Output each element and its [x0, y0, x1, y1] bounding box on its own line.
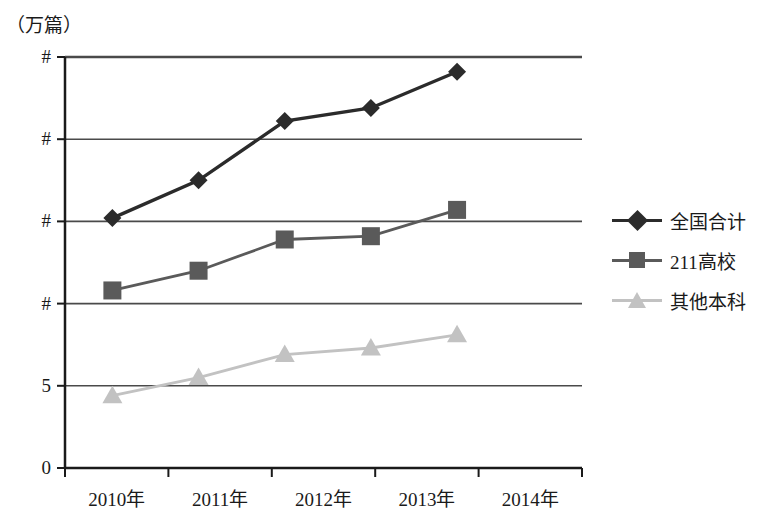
x-axis-tick-label: 2012年: [264, 490, 384, 509]
data-point-marker: [190, 262, 208, 280]
data-point-marker: [362, 227, 380, 245]
legend-label-2: 其他本科: [662, 287, 746, 314]
data-point-marker: [276, 230, 294, 248]
data-point-marker: [448, 201, 466, 219]
y-axis-tick-label: 5: [7, 376, 51, 395]
axis-lines: [65, 57, 582, 468]
chart-figure: （万篇） ####50 2010年2011年2012年2013年2014年 全国…: [0, 0, 768, 511]
legend-item-1[interactable]: 211高校: [612, 240, 768, 280]
gridlines: [65, 57, 582, 386]
legend-label-1: 211高校: [662, 247, 736, 274]
y-axis-tick-label: #: [7, 211, 51, 230]
legend-marker-diamond-icon: [612, 209, 662, 231]
series-line-0: [112, 72, 457, 218]
x-axis-ticks: [65, 468, 582, 477]
y-axis-tick-label: #: [7, 47, 51, 66]
series-markers: [102, 63, 467, 403]
legend-item-0[interactable]: 全国合计: [612, 200, 768, 240]
data-point-marker: [362, 99, 380, 117]
legend-marker-square-icon: [612, 249, 662, 271]
chart-legend: 全国合计 211高校 其他本科: [612, 200, 768, 320]
y-axis-tick-label: #: [7, 294, 51, 313]
legend-label-0: 全国合计: [662, 207, 746, 234]
data-point-marker: [103, 281, 121, 299]
data-point-marker: [103, 209, 121, 227]
legend-item-2[interactable]: 其他本科: [612, 280, 768, 320]
legend-marker-triangle-icon: [612, 289, 662, 311]
x-axis-tick-label: 2013年: [367, 490, 487, 509]
data-point-marker: [448, 63, 466, 81]
data-point-marker: [447, 325, 467, 343]
x-axis-tick-label: 2014年: [470, 490, 590, 509]
x-axis-tick-label: 2011年: [160, 490, 280, 509]
x-axis-tick-label: 2010年: [57, 490, 177, 509]
y-axis-tick-label: 0: [7, 458, 51, 477]
y-axis-tick-label: #: [7, 129, 51, 148]
